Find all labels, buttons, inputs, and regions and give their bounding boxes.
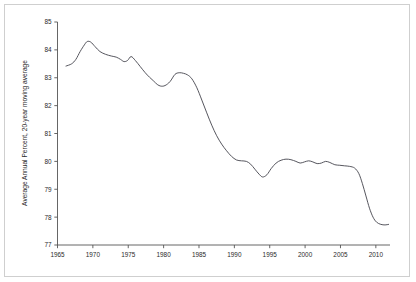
y-tick-label: 85 — [44, 18, 52, 25]
x-tick-label: 1990 — [227, 251, 242, 258]
x-axis-tick-labels: 1965197019751980198519901995200020052010 — [50, 251, 383, 258]
x-tick-label: 2005 — [333, 251, 348, 258]
chart-figure: 777879808182838485 196519701975198019851… — [0, 0, 416, 282]
x-tick-label: 2010 — [369, 251, 384, 258]
y-tick-label: 84 — [44, 46, 52, 53]
y-axis-tick-labels: 777879808182838485 — [44, 18, 52, 248]
y-tick-label: 82 — [44, 102, 52, 109]
y-axis-title: Average Annual Percent, 20-year moving a… — [21, 60, 29, 206]
y-tick-label: 81 — [44, 130, 52, 137]
x-tick-label: 1995 — [263, 251, 278, 258]
y-tick-label: 80 — [44, 158, 52, 165]
x-tick-label: 1985 — [192, 251, 207, 258]
x-tick-label: 1980 — [157, 251, 172, 258]
x-axis-tick-marks — [58, 245, 376, 248]
x-tick-label: 1965 — [50, 251, 65, 258]
x-tick-label: 1975 — [121, 251, 136, 258]
y-tick-label: 83 — [44, 74, 52, 81]
data-series-line — [66, 41, 389, 225]
y-tick-label: 78 — [44, 214, 52, 221]
line-chart: 777879808182838485 196519701975198019851… — [0, 0, 416, 282]
y-tick-label: 79 — [44, 186, 52, 193]
y-tick-label: 77 — [44, 241, 52, 248]
y-axis-tick-marks — [54, 22, 57, 245]
x-tick-label: 2000 — [298, 251, 313, 258]
x-tick-label: 1970 — [86, 251, 101, 258]
